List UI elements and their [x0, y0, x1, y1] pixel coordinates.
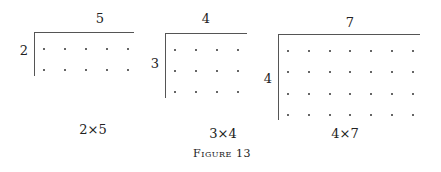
array-top-label: 5 — [96, 12, 104, 25]
dot — [329, 50, 331, 52]
array-top-label: 7 — [346, 16, 354, 29]
dot — [370, 93, 372, 95]
dot — [174, 49, 176, 51]
dot — [287, 93, 289, 95]
dot — [391, 114, 393, 116]
dot — [412, 50, 414, 52]
array-caption: 3×4 — [209, 126, 236, 141]
dot — [349, 114, 351, 116]
array-caption: 2×5 — [79, 122, 106, 137]
dot — [85, 48, 87, 50]
dot — [195, 91, 197, 93]
array-side-label: 2 — [20, 44, 28, 57]
array-side-label: 4 — [264, 72, 272, 85]
dot — [391, 71, 393, 73]
dot — [195, 70, 197, 72]
dot — [127, 69, 129, 71]
dot — [370, 50, 372, 52]
dot — [329, 71, 331, 73]
array-side-label: 3 — [151, 57, 159, 70]
dot — [106, 48, 108, 50]
dot — [308, 71, 310, 73]
dot — [391, 93, 393, 95]
array-side-line — [34, 32, 35, 76]
dot — [391, 50, 393, 52]
array-side-line — [165, 33, 166, 98]
dot — [370, 71, 372, 73]
array-top-line — [165, 33, 247, 34]
dot — [237, 49, 239, 51]
dot — [329, 114, 331, 116]
dot — [349, 50, 351, 52]
dot — [349, 93, 351, 95]
dot — [349, 71, 351, 73]
dot — [412, 114, 414, 116]
dot — [43, 48, 45, 50]
dot — [308, 114, 310, 116]
dot — [287, 50, 289, 52]
dot — [412, 93, 414, 95]
array-side-line — [278, 34, 279, 120]
dot — [106, 69, 108, 71]
array-caption: 4×7 — [331, 126, 358, 141]
dot — [174, 91, 176, 93]
dot — [64, 69, 66, 71]
dot — [287, 114, 289, 116]
array-top-label: 4 — [202, 12, 210, 25]
dot — [287, 71, 289, 73]
dot — [64, 48, 66, 50]
figure-caption: Figure 13 — [193, 147, 251, 160]
dot — [43, 69, 45, 71]
dot — [412, 71, 414, 73]
dot — [308, 93, 310, 95]
dot — [174, 70, 176, 72]
dot — [127, 48, 129, 50]
dot — [237, 91, 239, 93]
dot — [329, 93, 331, 95]
array-top-line — [34, 32, 134, 33]
dot — [370, 114, 372, 116]
dot — [308, 50, 310, 52]
dot — [216, 91, 218, 93]
dot — [85, 69, 87, 71]
dot — [195, 49, 197, 51]
dot — [237, 70, 239, 72]
array-top-line — [278, 34, 420, 35]
dot — [216, 70, 218, 72]
dot — [216, 49, 218, 51]
